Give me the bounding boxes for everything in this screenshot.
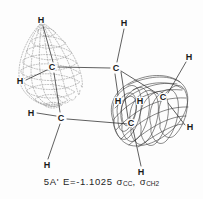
atom-c-lower: C [58,114,65,123]
bond-c-left-to-h-top [43,26,53,62]
molecular-orbital-figure: H H H C C H C H H C H C H H H 5A'E=-1.10… [0,0,203,199]
caption-state-label: 5A' [44,176,59,187]
atom-h-far-left: H [17,77,24,86]
caption-separator: , [132,176,135,187]
atom-h-lower-left: H [28,109,35,118]
atom-h-inner-right: H [137,97,144,106]
bond-c-lower-to-right [67,119,128,124]
atom-h-far-right: H [187,123,194,132]
caption-energy: E=-1.1025 [63,176,113,187]
atom-h-top-right: H [186,53,193,62]
caption-sigma-ch2-sub-text: CH [146,180,155,187]
atom-h-top-left: H [38,16,45,25]
bond-c-left-to-c-center [58,67,110,68]
atom-c-center: C [113,64,120,73]
caption-sigma-ch2-sub-number: 2 [156,180,160,187]
positive-phase-lobe [111,75,188,147]
atom-c-right-upper: C [160,93,167,102]
atom-h-mid-lower: H [115,97,122,106]
bond-c-center-to-h-top [117,29,124,62]
bond-c-center-to-c-right [121,71,158,94]
atom-c-right-lower: C [128,119,135,128]
bond-c-left-to-h-far-left [26,70,47,80]
atom-h-bottom-left: H [44,161,51,170]
bond-c-lower-to-h-left [37,113,56,116]
atom-h-top-center: H [121,19,128,28]
bond-c-lower-to-h-bottom [48,124,60,159]
atom-c-left: C [49,63,56,72]
caption-sigma-ch2-subscript: CH2 [146,180,159,187]
orbital-plot-canvas [0,0,203,199]
bond-c-center-to-h-lower [115,74,118,95]
bond-c-center-to-c-rlower [121,72,128,118]
figure-caption: 5A'E=-1.1025σCC,σCH2 [0,176,203,187]
bond-c-rlower-to-h-bottom [133,129,141,166]
